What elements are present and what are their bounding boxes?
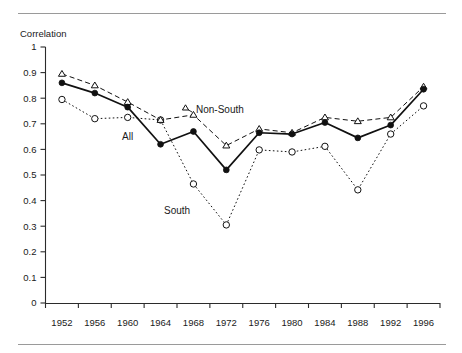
data-point-marker <box>191 129 197 135</box>
y-tick-label: 0.4 <box>23 195 36 206</box>
chart-figure: Correlation 10.90.80.70.60.50.40.30.20.1… <box>0 0 462 353</box>
data-point-marker <box>387 131 393 137</box>
annotation-south: South <box>164 205 190 216</box>
data-point-marker <box>256 147 262 153</box>
data-point-marker <box>59 80 65 86</box>
data-point-marker <box>125 104 131 110</box>
y-axis-title: Correlation <box>20 28 66 39</box>
data-point-marker <box>92 90 98 96</box>
y-tick-label: 0.7 <box>23 118 36 129</box>
y-tick-label: 1 <box>31 41 36 52</box>
x-tick-label: 1972 <box>216 317 237 328</box>
data-point-marker <box>223 222 229 228</box>
data-point-marker <box>92 115 98 121</box>
y-tick-label: 0.9 <box>23 67 36 78</box>
x-tick-label: 1952 <box>51 317 72 328</box>
correlation-line-chart: Correlation 10.90.80.70.60.50.40.30.20.1… <box>0 0 462 353</box>
chart-background <box>0 0 462 353</box>
south-label: South <box>164 205 190 216</box>
data-point-marker <box>124 114 130 120</box>
x-tick-label: 1956 <box>84 317 105 328</box>
data-point-marker <box>158 141 164 147</box>
x-tick-label: 1960 <box>117 317 138 328</box>
x-tick-label: 1992 <box>380 317 401 328</box>
annotation-all: All <box>122 131 133 142</box>
data-point-marker <box>190 181 196 187</box>
x-tick-label: 1968 <box>183 317 204 328</box>
y-tick-label: 0.2 <box>23 246 36 257</box>
data-point-marker <box>289 131 295 137</box>
data-point-marker <box>421 86 427 92</box>
data-point-marker <box>223 167 229 173</box>
x-tick-label: 1996 <box>413 317 434 328</box>
data-point-marker <box>322 120 328 126</box>
y-tick-label: 0.5 <box>23 169 36 180</box>
y-tick-label: 0.1 <box>23 272 36 283</box>
data-point-marker <box>256 130 262 136</box>
data-point-marker <box>289 149 295 155</box>
data-point-marker <box>355 135 361 141</box>
x-tick-label: 1976 <box>249 317 270 328</box>
data-point-marker <box>420 103 426 109</box>
y-tick-label: 0.6 <box>23 144 36 155</box>
x-tick-label: 1984 <box>314 317 335 328</box>
x-tick-label: 1964 <box>150 317 171 328</box>
data-point-marker <box>322 143 328 149</box>
y-tick-label: 0.8 <box>23 93 36 104</box>
all-label: All <box>122 131 133 142</box>
data-point-marker <box>388 122 394 128</box>
y-tick-label: 0.3 <box>23 221 36 232</box>
x-tick-label: 1980 <box>281 317 302 328</box>
y-tick-label: 0 <box>31 297 36 308</box>
x-tick-label: 1988 <box>347 317 368 328</box>
data-point-marker <box>355 187 361 193</box>
non-south-label: Non-South <box>196 104 244 115</box>
data-point-marker <box>59 96 65 102</box>
